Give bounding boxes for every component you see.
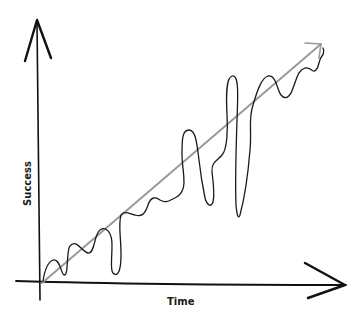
x-axis-arrowhead-icon — [305, 263, 345, 298]
trend-arrow — [42, 43, 321, 283]
success-vs-time-diagram — [0, 0, 355, 324]
x-axis-line — [16, 281, 346, 285]
trend-line — [42, 44, 321, 283]
x-axis — [16, 263, 346, 298]
y-axis-line — [37, 22, 40, 300]
y-axis-label: Success — [22, 159, 33, 209]
x-axis-label: Time — [167, 296, 194, 307]
